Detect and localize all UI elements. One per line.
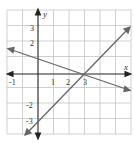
- y-tick-neg2: -2: [26, 101, 33, 110]
- grid: [7, 10, 131, 134]
- x-axis-label: x: [123, 62, 128, 72]
- y-tick-2: 2: [30, 39, 34, 48]
- x-tick-2: 2: [66, 78, 70, 87]
- x-tick-neg1: -1: [9, 78, 16, 87]
- coordinate-plane: y x -1 1 2 3 3 2 -2 -3: [0, 0, 134, 143]
- x-tick-1: 1: [51, 78, 55, 87]
- x-tick-3: 3: [83, 78, 87, 87]
- y-axis-label: y: [42, 9, 47, 19]
- y-tick-3: 3: [30, 24, 34, 33]
- y-tick-neg3: -3: [26, 117, 33, 126]
